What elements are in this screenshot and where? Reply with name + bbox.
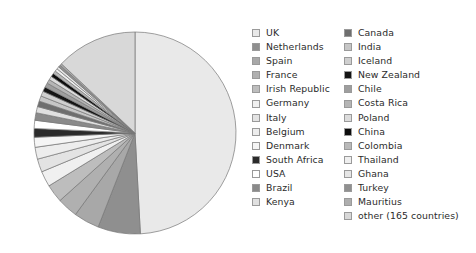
- pie-slice[interactable]: [135, 32, 236, 234]
- legend-item[interactable]: Chile: [344, 82, 476, 96]
- legend-swatch-icon: [344, 170, 352, 178]
- legend-item-label: Turkey: [358, 181, 389, 195]
- pie-chart-figure: UKNetherlandsSpainFranceIrish RepublicGe…: [0, 0, 476, 253]
- legend-item[interactable]: South Africa: [252, 153, 344, 167]
- legend-swatch-icon: [344, 156, 352, 164]
- legend-item[interactable]: Netherlands: [252, 40, 344, 54]
- legend-column-1: UKNetherlandsSpainFranceIrish RepublicGe…: [252, 26, 344, 223]
- legend-item-label: Poland: [358, 111, 390, 125]
- legend-item-label: Costa Rica: [358, 96, 408, 110]
- legend-swatch-icon: [252, 71, 260, 79]
- legend-item[interactable]: Iceland: [344, 54, 476, 68]
- legend-item-label: Mauritius: [358, 195, 402, 209]
- legend-swatch-icon: [252, 29, 260, 37]
- legend-item[interactable]: Denmark: [252, 139, 344, 153]
- legend-item-label: Belgium: [266, 125, 305, 139]
- legend-item[interactable]: Italy: [252, 111, 344, 125]
- legend-item[interactable]: Colombia: [344, 139, 476, 153]
- legend-swatch-icon: [344, 43, 352, 51]
- legend-item-label: Iceland: [358, 54, 392, 68]
- legend-swatch-icon: [252, 156, 260, 164]
- legend-item-label: France: [266, 68, 297, 82]
- legend-swatch-icon: [252, 85, 260, 93]
- legend-item-label: Colombia: [358, 139, 402, 153]
- legend-item[interactable]: China: [344, 125, 476, 139]
- legend-swatch-icon: [344, 100, 352, 108]
- legend-item[interactable]: Spain: [252, 54, 344, 68]
- legend-swatch-icon: [252, 128, 260, 136]
- legend-item-label: Netherlands: [266, 40, 324, 54]
- legend-item[interactable]: France: [252, 68, 344, 82]
- legend-item-label: UK: [266, 26, 279, 40]
- legend-swatch-icon: [252, 142, 260, 150]
- legend-item[interactable]: India: [344, 40, 476, 54]
- legend-item-label: Canada: [358, 26, 394, 40]
- legend-item[interactable]: Ghana: [344, 167, 476, 181]
- legend-item[interactable]: Germany: [252, 96, 344, 110]
- legend-swatch-icon: [252, 114, 260, 122]
- legend-item-label: Ghana: [358, 167, 389, 181]
- legend-item[interactable]: Kenya: [252, 195, 344, 209]
- legend-item[interactable]: Belgium: [252, 125, 344, 139]
- legend-item-label: Spain: [266, 54, 292, 68]
- legend-item-label: South Africa: [266, 153, 324, 167]
- legend-swatch-icon: [252, 184, 260, 192]
- legend-swatch-icon: [344, 57, 352, 65]
- legend-item[interactable]: Canada: [344, 26, 476, 40]
- legend-item[interactable]: Brazil: [252, 181, 344, 195]
- legend-item-label: Germany: [266, 96, 309, 110]
- legend-item-label: USA: [266, 167, 286, 181]
- legend-column-2: CanadaIndiaIcelandNew ZealandChileCosta …: [344, 26, 476, 223]
- legend-swatch-icon: [344, 128, 352, 136]
- legend-swatch-icon: [252, 170, 260, 178]
- legend-item-label: Denmark: [266, 139, 309, 153]
- legend-swatch-icon: [344, 212, 352, 220]
- legend-item-label: India: [358, 40, 381, 54]
- legend-swatch-icon: [252, 43, 260, 51]
- legend-item-label: Kenya: [266, 195, 295, 209]
- legend-item[interactable]: Mauritius: [344, 195, 476, 209]
- legend-item[interactable]: UK: [252, 26, 344, 40]
- legend-item[interactable]: Thailand: [344, 153, 476, 167]
- legend-swatch-icon: [344, 198, 352, 206]
- pie-chart-svg: [30, 27, 240, 239]
- legend-item-label: Irish Republic: [266, 82, 330, 96]
- legend-swatch-icon: [344, 142, 352, 150]
- pie-slice-group: [34, 32, 236, 234]
- pie-chart-plot-area: [30, 27, 240, 239]
- legend-item[interactable]: Irish Republic: [252, 82, 344, 96]
- legend-item-label: other (165 countries): [358, 209, 459, 223]
- legend-item-label: Thailand: [358, 153, 399, 167]
- legend-item[interactable]: USA: [252, 167, 344, 181]
- legend-item-label: Chile: [358, 82, 382, 96]
- chart-legend: UKNetherlandsSpainFranceIrish RepublicGe…: [252, 26, 476, 223]
- legend-swatch-icon: [344, 71, 352, 79]
- legend-swatch-icon: [252, 198, 260, 206]
- legend-item[interactable]: Costa Rica: [344, 96, 476, 110]
- legend-swatch-icon: [344, 85, 352, 93]
- legend-item-label: New Zealand: [358, 68, 420, 82]
- legend-swatch-icon: [252, 100, 260, 108]
- legend-swatch-icon: [344, 114, 352, 122]
- legend-item-label: Brazil: [266, 181, 293, 195]
- legend-item-label: Italy: [266, 111, 287, 125]
- legend-swatch-icon: [344, 29, 352, 37]
- legend-item[interactable]: other (165 countries): [344, 209, 476, 223]
- legend-swatch-icon: [344, 184, 352, 192]
- legend-item[interactable]: Turkey: [344, 181, 476, 195]
- legend-item[interactable]: New Zealand: [344, 68, 476, 82]
- legend-item-label: China: [358, 125, 385, 139]
- legend-swatch-icon: [252, 57, 260, 65]
- legend-item[interactable]: Poland: [344, 111, 476, 125]
